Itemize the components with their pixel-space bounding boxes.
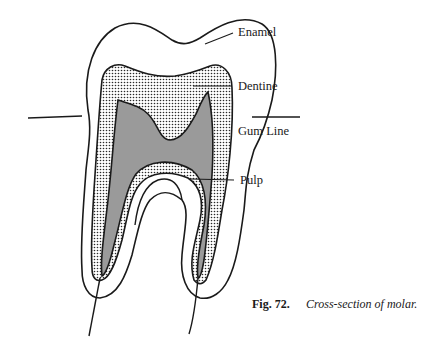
figure-number: Fig. 72. xyxy=(252,297,290,311)
label-gum-line: Gum Line xyxy=(238,124,289,138)
label-pulp: Pulp xyxy=(240,173,263,187)
label-enamel: Enamel xyxy=(238,25,277,39)
figure-caption: Cross-section of molar. xyxy=(306,297,417,311)
label-dentine: Dentine xyxy=(238,79,278,93)
molar-diagram: Enamel Dentine Gum Line Pulp Fig. 72. Cr… xyxy=(0,0,428,359)
gum-line-left xyxy=(28,116,82,118)
